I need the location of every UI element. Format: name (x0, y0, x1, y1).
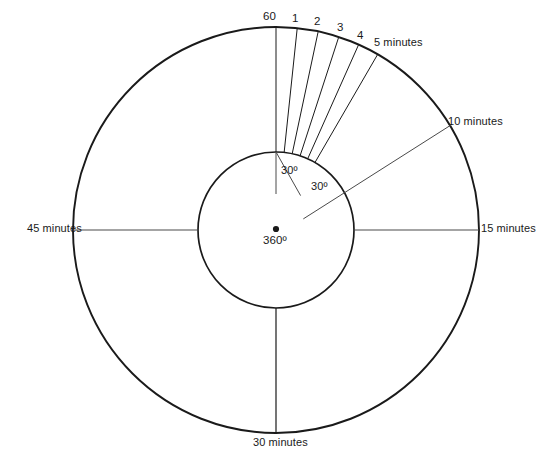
minute-spoke-1 (284, 28, 297, 152)
label-45-minutes: 45 minutes (27, 223, 82, 234)
label-tick-5-minutes: 5 minutes (374, 37, 423, 48)
label-tick-4: 4 (357, 30, 364, 42)
label-angle-30-right: 30º (311, 181, 328, 192)
label-center-360: 360º (263, 235, 287, 247)
label-tick-1: 1 (292, 13, 299, 25)
minute-spoke-4 (308, 45, 359, 159)
clock-degree-diagram: 60 1 2 3 4 5 minutes 10 minutes 15 minut… (0, 0, 541, 462)
major-spoke-10-minutes (303, 125, 452, 219)
minute-spoke-5 (315, 55, 378, 163)
label-10-minutes: 10 minutes (448, 116, 503, 127)
center-dot (273, 226, 279, 232)
minute-spoke-3 (300, 37, 339, 156)
minute-spoke-2 (292, 31, 318, 153)
label-tick-3: 3 (337, 22, 344, 34)
label-angle-30-left: 30º (281, 165, 298, 176)
label-tick-60: 60 (263, 11, 276, 23)
label-30-minutes: 30 minutes (253, 437, 308, 448)
label-15-minutes: 15 minutes (481, 223, 536, 234)
label-tick-2: 2 (314, 16, 321, 28)
